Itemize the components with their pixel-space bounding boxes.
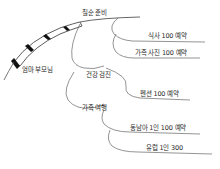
node-root: 엄마 부모님 [22, 66, 53, 74]
node-pension-reservation: 펜션 100 예약 [140, 90, 179, 98]
node-family-photo-reservation: 가족 사진 100 예약 [135, 49, 187, 57]
mind-map-canvas [0, 0, 220, 169]
node-southeast-asia-reservation: 동남아 1인 100 예약 [130, 124, 186, 132]
pencil-icon [11, 22, 82, 69]
branch-line-chilsun [80, 17, 140, 22]
connector-health-check [72, 24, 104, 69]
node-family-trip: 가족 여행 [82, 104, 107, 112]
node-siksa-reservation: 식사 100 예약 [148, 32, 187, 40]
node-chilsun-prep: 칠순 준비 [82, 9, 107, 17]
node-health-check: 건강 검진 [86, 71, 111, 79]
node-europe-trip: 유럽 1인 300 [146, 144, 183, 152]
trunk-line [4, 62, 14, 80]
